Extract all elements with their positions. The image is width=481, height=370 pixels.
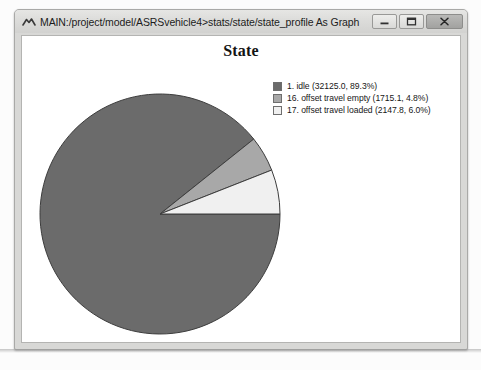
legend-swatch-offset-travel-loaded: [273, 106, 282, 115]
scan-fold-shadow: [0, 349, 481, 353]
minimize-button[interactable]: [372, 14, 397, 29]
legend-item[interactable]: 16. offset travel empty (1715.1, 4.8%): [273, 92, 453, 104]
pie-slices: [40, 94, 280, 334]
chart-legend: 1. idle (32125.0, 89.3%) 16. offset trav…: [273, 80, 453, 116]
minimize-icon: [379, 17, 390, 26]
legend-label-idle: 1. idle (32125.0, 89.3%): [287, 81, 377, 91]
legend-item[interactable]: 17. offset travel loaded (2147.8, 6.0%): [273, 104, 453, 116]
window-titlebar[interactable]: MAIN:/project/model/ASRSvehicle4>stats/s…: [15, 10, 467, 33]
maximize-icon: [406, 17, 417, 26]
window-title: MAIN:/project/model/ASRSvehicle4>stats/s…: [40, 16, 370, 28]
legend-label-offset-travel-loaded: 17. offset travel loaded (2147.8, 6.0%): [287, 105, 431, 115]
legend-label-offset-travel-empty: 16. offset travel empty (1715.1, 4.8%): [287, 93, 428, 103]
pie-chart-svg: [38, 92, 282, 336]
figure-caption: [0, 358, 481, 370]
graph-icon: [22, 16, 36, 28]
close-icon: [439, 17, 450, 26]
chart-panel: State 1. idle (32125.0, 89.3%) 16. offse…: [21, 35, 461, 343]
close-button[interactable]: [426, 14, 463, 29]
maximize-button[interactable]: [399, 14, 424, 29]
window-controls: [370, 14, 463, 29]
application-window: MAIN:/project/model/ASRSvehicle4>stats/s…: [14, 9, 468, 350]
legend-swatch-offset-travel-empty: [273, 94, 282, 103]
legend-swatch-idle: [273, 82, 282, 91]
legend-item[interactable]: 1. idle (32125.0, 89.3%): [273, 80, 453, 92]
